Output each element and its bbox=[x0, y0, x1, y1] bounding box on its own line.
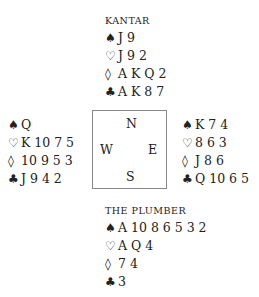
heart-icon: ♡ bbox=[182, 134, 195, 152]
diamond-icon: ◊ bbox=[105, 65, 118, 83]
north-diamonds-cards: A K Q 2 bbox=[118, 66, 167, 81]
south-hearts: ♡A Q 4 bbox=[105, 237, 207, 255]
heart-icon: ♡ bbox=[105, 47, 118, 65]
north-clubs-cards: A K 8 7 bbox=[118, 84, 164, 99]
compass-north: N bbox=[126, 116, 137, 131]
south-player-name: THE PLUMBER bbox=[105, 204, 207, 218]
club-icon: ♣ bbox=[105, 83, 118, 101]
north-spades-cards: J 9 bbox=[118, 30, 135, 45]
diamond-icon: ◊ bbox=[182, 152, 195, 170]
east-clubs: ♣Q 10 6 5 bbox=[182, 170, 249, 188]
club-icon: ♣ bbox=[8, 170, 21, 188]
west-hearts: ♡K 10 7 5 bbox=[8, 134, 74, 152]
north-hearts: ♡J 9 2 bbox=[105, 47, 167, 65]
south-hand: THE PLUMBER ♠A 10 8 6 5 3 2 ♡A Q 4 ◊7 4 … bbox=[105, 204, 207, 291]
south-clubs: ♣3 bbox=[105, 273, 207, 291]
compass-west: W bbox=[100, 142, 113, 157]
west-spades-cards: Q bbox=[21, 117, 31, 132]
spade-icon: ♠ bbox=[105, 29, 118, 47]
east-clubs-cards: Q 10 6 5 bbox=[195, 171, 249, 186]
diamond-icon: ◊ bbox=[105, 255, 118, 273]
west-hand: ♠Q ♡K 10 7 5 ◊10 9 5 3 ♣J 9 4 2 bbox=[8, 116, 74, 188]
east-hand: ♠K 7 4 ♡8 6 3 ◊J 8 6 ♣Q 10 6 5 bbox=[182, 116, 249, 188]
club-icon: ♣ bbox=[105, 273, 118, 291]
west-clubs: ♣J 9 4 2 bbox=[8, 170, 74, 188]
west-hearts-cards: K 10 7 5 bbox=[21, 135, 74, 150]
south-diamonds-cards: 7 4 bbox=[118, 256, 138, 271]
north-diamonds: ◊A K Q 2 bbox=[105, 65, 167, 83]
club-icon: ♣ bbox=[182, 170, 195, 188]
south-hearts-cards: A Q 4 bbox=[118, 238, 153, 253]
spade-icon: ♠ bbox=[182, 116, 195, 134]
spade-icon: ♠ bbox=[105, 219, 118, 237]
north-hand: KANTAR ♠J 9 ♡J 9 2 ◊A K Q 2 ♣A K 8 7 bbox=[105, 14, 167, 101]
south-clubs-cards: 3 bbox=[118, 274, 126, 289]
east-spades-cards: K 7 4 bbox=[195, 117, 228, 132]
west-diamonds-cards: 10 9 5 3 bbox=[21, 153, 73, 168]
south-spades: ♠A 10 8 6 5 3 2 bbox=[105, 219, 207, 237]
east-diamonds-cards: J 8 6 bbox=[195, 153, 224, 168]
south-diamonds: ◊7 4 bbox=[105, 255, 207, 273]
heart-icon: ♡ bbox=[105, 237, 118, 255]
heart-icon: ♡ bbox=[8, 134, 21, 152]
compass-east: E bbox=[148, 142, 157, 157]
north-spades: ♠J 9 bbox=[105, 29, 167, 47]
compass-box: N W E S bbox=[92, 110, 167, 189]
north-clubs: ♣A K 8 7 bbox=[105, 83, 167, 101]
west-spades: ♠Q bbox=[8, 116, 74, 134]
west-clubs-cards: J 9 4 2 bbox=[21, 171, 62, 186]
north-player-name: KANTAR bbox=[105, 14, 167, 28]
compass-south: S bbox=[126, 169, 135, 184]
north-hearts-cards: J 9 2 bbox=[118, 48, 147, 63]
east-hearts: ♡8 6 3 bbox=[182, 134, 249, 152]
west-diamonds: ◊10 9 5 3 bbox=[8, 152, 74, 170]
east-diamonds: ◊J 8 6 bbox=[182, 152, 249, 170]
east-spades: ♠K 7 4 bbox=[182, 116, 249, 134]
diamond-icon: ◊ bbox=[8, 152, 21, 170]
spade-icon: ♠ bbox=[8, 116, 21, 134]
east-hearts-cards: 8 6 3 bbox=[195, 135, 227, 150]
south-spades-cards: A 10 8 6 5 3 2 bbox=[118, 220, 207, 235]
